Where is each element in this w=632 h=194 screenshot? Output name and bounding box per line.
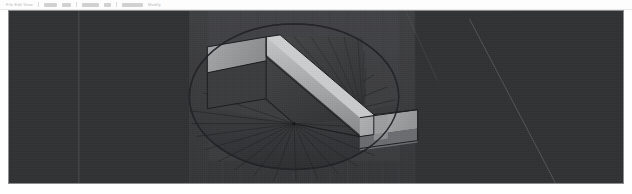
toolbar-icon-5[interactable] xyxy=(122,3,143,7)
bottom-margin xyxy=(0,185,632,194)
toolbar-menu-label-right[interactable]: Modify xyxy=(148,2,161,7)
toolbar-menu-label-left[interactable]: File Edit View xyxy=(6,2,33,7)
toolbar-icon-3[interactable] xyxy=(82,3,99,7)
slab-end-face xyxy=(374,113,388,141)
toolbar-separator xyxy=(76,2,77,7)
toolbar-icon-2[interactable] xyxy=(62,3,71,7)
toolbar-icon-1[interactable] xyxy=(44,3,57,7)
toolbar-separator xyxy=(38,2,39,7)
3d-viewport[interactable] xyxy=(8,10,624,184)
toolbar-icon-4[interactable] xyxy=(104,3,111,7)
application-window: File Edit View Modify xyxy=(0,0,632,194)
toolbar-group: File Edit View Modify xyxy=(0,0,161,9)
toolbar-separator xyxy=(116,2,117,7)
viewport-geometry-layer xyxy=(9,11,623,184)
top-toolbar[interactable]: File Edit View Modify xyxy=(0,0,632,10)
center-pivot-point xyxy=(292,122,295,125)
